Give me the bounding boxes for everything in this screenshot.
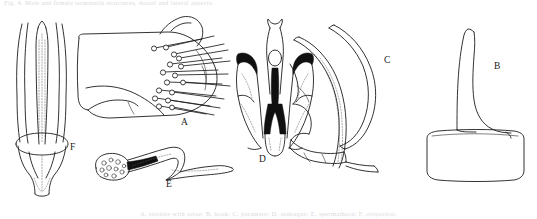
figure-plate: Fig. 4. Male and female terminalia struc… xyxy=(0,0,537,219)
figure-f xyxy=(4,18,80,198)
caption-bottom: A, sternite with setae; B, hook; C, para… xyxy=(0,210,537,219)
figure-label-e: E xyxy=(166,180,172,190)
figure-label-c: C xyxy=(384,56,391,66)
setae-group xyxy=(152,36,231,115)
figure-label-a: A xyxy=(181,118,188,128)
figure-label-f: F xyxy=(70,143,76,153)
figure-b xyxy=(418,24,530,189)
caption-top: Fig. 4. Male and female terminalia struc… xyxy=(0,0,537,7)
figure-e xyxy=(86,146,236,192)
figure-a xyxy=(72,14,232,129)
figure-label-d: D xyxy=(259,155,266,165)
figure-label-b: B xyxy=(494,62,501,72)
figure-c xyxy=(288,22,398,182)
